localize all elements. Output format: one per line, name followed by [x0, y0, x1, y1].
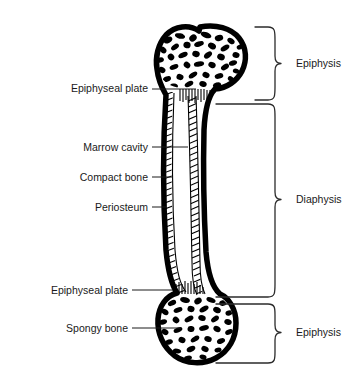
bone-diagram: Epiphyseal plate Marrow cavity Compact b… [0, 0, 363, 382]
bracket-diaphysis: Diaphysis [216, 104, 342, 297]
label-compact-bone-text: Compact bone [80, 171, 148, 183]
label-epiphyseal-plate-distal: Epiphyseal plate [51, 284, 173, 296]
label-epiphysis-distal-text: Epiphysis [296, 326, 341, 338]
bracket-epiphysis-proximal: Epiphysis [255, 27, 341, 100]
label-diaphysis-text: Diaphysis [296, 193, 342, 205]
label-epiphyseal-plate-distal-text: Epiphyseal plate [51, 284, 128, 296]
label-compact-bone: Compact bone [80, 171, 173, 183]
label-epiphysis-proximal-text: Epiphysis [296, 57, 341, 69]
bone-body [156, 26, 246, 363]
long-bone-figure: Epiphyseal plate Marrow cavity Compact b… [0, 0, 363, 382]
label-epiphyseal-plate-proximal-text: Epiphyseal plate [71, 82, 148, 94]
label-periosteum: Periosteum [95, 201, 166, 213]
label-spongy-bone-text: Spongy bone [66, 322, 128, 334]
label-periosteum-text: Periosteum [95, 201, 148, 213]
label-marrow-cavity-text: Marrow cavity [83, 141, 149, 153]
